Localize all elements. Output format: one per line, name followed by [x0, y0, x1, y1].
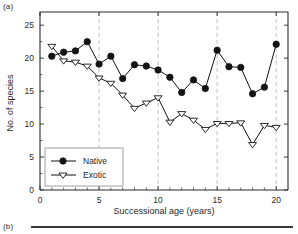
x-tick-label-15: 15 [212, 195, 222, 205]
x-tick-label-20: 20 [271, 195, 281, 205]
y-tick-label-15: 15 [25, 86, 35, 96]
y-axis-title: No. of species [5, 74, 15, 132]
x-axis-title: Successional age (years) [113, 206, 214, 216]
y-tick-label-10: 10 [25, 119, 35, 129]
y-tick-label-20: 20 [25, 53, 35, 63]
point-exotic-8 [130, 106, 138, 111]
point-exotic-9 [142, 101, 150, 106]
y-tick-label-0: 0 [29, 185, 34, 195]
point-exotic-20 [272, 125, 280, 130]
point-native-18 [249, 91, 255, 97]
point-exotic-15 [213, 121, 221, 126]
point-exotic-17 [237, 121, 245, 126]
series-line-exotic [52, 46, 276, 144]
point-native-17 [238, 64, 244, 70]
point-exotic-14 [201, 127, 209, 132]
point-native-5 [96, 61, 102, 67]
point-native-11 [167, 74, 173, 80]
point-exotic-16 [225, 121, 233, 126]
grid-lines [99, 12, 276, 190]
chart-legend[interactable]: NativeExotic [45, 148, 123, 186]
point-native-9 [143, 63, 149, 69]
x-tick-label-0: 0 [38, 195, 43, 205]
point-exotic-5 [95, 76, 103, 81]
point-exotic-10 [154, 96, 162, 101]
point-native-8 [131, 62, 137, 68]
point-native-13 [190, 77, 196, 83]
point-native-2 [60, 49, 66, 55]
point-native-3 [72, 48, 78, 54]
species-richness-chart: 051015202505101520 NativeExotic Successi… [0, 0, 298, 234]
data-series [48, 38, 280, 147]
legend-background [45, 148, 123, 186]
chart-canvas: 051015202505101520 NativeExotic Successi… [0, 0, 298, 234]
point-native-12 [179, 89, 185, 95]
point-exotic-11 [166, 120, 174, 125]
point-exotic-18 [249, 143, 257, 148]
panel-b-label: (b) [3, 222, 13, 231]
point-native-7 [119, 75, 125, 81]
legend-label-native[interactable]: Native [83, 156, 107, 166]
point-native-4 [84, 38, 90, 44]
point-native-6 [108, 53, 114, 59]
point-native-16 [226, 64, 232, 70]
y-tick-label-25: 25 [25, 20, 35, 30]
point-native-15 [214, 47, 220, 53]
point-exotic-1 [48, 44, 56, 49]
legend-marker-native [60, 158, 66, 164]
y-tick-label-5: 5 [29, 152, 34, 162]
point-native-14 [202, 85, 208, 91]
legend-label-exotic[interactable]: Exotic [83, 170, 107, 180]
point-native-10 [155, 67, 161, 73]
x-tick-label-5: 5 [97, 195, 102, 205]
panel-b-top-rule [31, 226, 293, 228]
x-tick-label-10: 10 [153, 195, 163, 205]
point-native-20 [273, 41, 279, 47]
point-native-1 [49, 53, 55, 59]
point-native-19 [261, 84, 267, 90]
